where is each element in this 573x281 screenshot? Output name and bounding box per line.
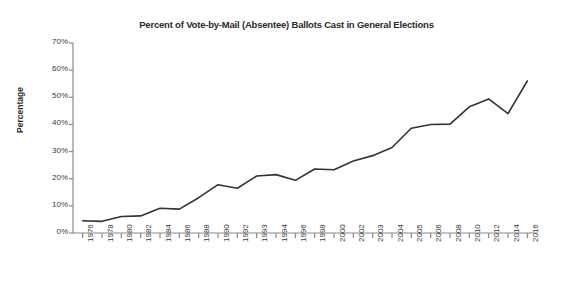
x-axis-tick-label: 1990 — [222, 224, 231, 242]
x-axis-tick-label: 2016 — [531, 224, 540, 242]
x-axis-tick-label: 1976 — [86, 224, 95, 242]
x-axis-tick-label: 2006 — [434, 224, 443, 242]
x-axis-tick-label: 1984 — [164, 224, 173, 242]
x-axis-tick-label: 1993 — [260, 224, 269, 242]
x-axis-tick-label: 1986 — [183, 224, 192, 242]
x-axis-tick-label: 2005 — [415, 224, 424, 242]
x-axis-tick-label: 1980 — [125, 224, 134, 242]
x-axis-tick-label: 1978 — [106, 224, 115, 242]
x-axis-tick-label: 1992 — [241, 224, 250, 242]
x-axis-tick-label: 1994 — [280, 224, 289, 242]
x-axis-tick-label: 2010 — [473, 224, 482, 242]
x-axis-tick-label: 1988 — [202, 224, 211, 242]
x-axis-tick-labels: 1976197819801982198419861988199019921993… — [0, 0, 573, 281]
x-axis-tick-label: 1998 — [318, 224, 327, 242]
x-axis-tick-label: 2014 — [512, 224, 521, 242]
x-axis-tick-label: 2002 — [357, 224, 366, 242]
x-axis-tick-label: 2004 — [396, 224, 405, 242]
x-axis-tick-label: 2000 — [338, 224, 347, 242]
x-axis-tick-label: 2008 — [454, 224, 463, 242]
x-axis-tick-label: 2012 — [492, 224, 501, 242]
x-axis-tick-label: 1996 — [299, 224, 308, 242]
x-axis-tick-label: 2003 — [376, 224, 385, 242]
x-axis-tick-label: 1982 — [144, 224, 153, 242]
chart-figure: Percent of Vote-by-Mail (Absentee) Ballo… — [0, 0, 573, 281]
